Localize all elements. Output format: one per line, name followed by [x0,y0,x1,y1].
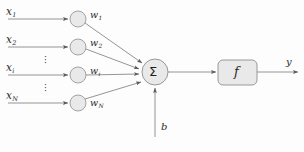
weight-node-2 [70,39,86,55]
input-label-2: x2 [6,34,16,46]
output-label: y [286,57,292,67]
ellipsis-dot: · [44,62,47,65]
weight-label-3: wi [90,66,100,78]
weight-label-1: w1 [90,10,102,22]
input-label-4: xN [6,90,18,102]
activation-function-label: f [234,65,239,78]
weight-node-3 [70,67,86,83]
input-label-1: x1 [6,6,16,18]
vertical-ellipsis-upper: · · · [44,56,47,65]
vertical-ellipsis-lower: · · · [44,84,47,93]
weight-node-4 [70,95,86,111]
weight-to-sum-lines [85,23,142,99]
weight-node-1 [70,11,86,27]
ellipsis-dot: · [44,90,47,93]
summation-symbol: Σ [149,65,157,78]
neuron-diagram-canvas: x1 x2 xi xN w1 w2 wi wN · · · · · · Σ b … [0,0,304,152]
weight-nodes [70,11,86,111]
input-label-3: xi [6,62,14,74]
bias-label: b [161,122,167,132]
weight-label-2: w2 [90,38,102,50]
weight-label-4: wN [90,98,104,110]
